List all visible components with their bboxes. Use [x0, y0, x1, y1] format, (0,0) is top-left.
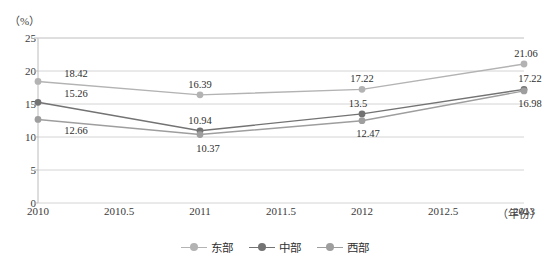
legend-item-1[interactable]: 中部 [249, 239, 301, 255]
data-label: 13.5 [349, 97, 367, 108]
legend-item-0[interactable]: 东部 [181, 239, 233, 255]
legend-marker-icon [317, 242, 343, 252]
gridlines [38, 38, 524, 203]
chart-legend: 东部中部西部 [0, 239, 549, 255]
data-point [359, 117, 366, 124]
data-label: 12.66 [64, 125, 88, 136]
data-label: 10.94 [188, 114, 212, 125]
data-point [521, 88, 528, 95]
data-point [197, 131, 204, 138]
data-point [197, 91, 204, 98]
series-line-1 [38, 89, 524, 130]
legend-marker-icon [249, 242, 275, 252]
data-label: 21.06 [514, 48, 538, 59]
data-label: 15.26 [64, 88, 88, 99]
series-line-2 [38, 91, 524, 135]
data-label: 17.22 [350, 73, 374, 84]
series-lines [38, 64, 524, 135]
data-label: 18.42 [64, 68, 88, 79]
data-point [359, 111, 366, 118]
data-label: 16.39 [188, 78, 212, 89]
legend-item-2[interactable]: 西部 [317, 239, 369, 255]
legend-marker-icon [181, 242, 207, 252]
legend-label: 中部 [279, 239, 301, 255]
data-point [35, 116, 42, 123]
line-chart: （%） （年份） 0510152025 20102010.520112011.5… [0, 0, 549, 264]
data-label: 10.37 [196, 142, 220, 153]
data-point [35, 78, 42, 85]
data-label: 17.22 [518, 73, 542, 84]
data-point [35, 99, 42, 106]
data-label: 16.98 [518, 97, 542, 108]
legend-label: 西部 [347, 239, 369, 255]
data-point [521, 61, 528, 68]
data-point [359, 86, 366, 93]
legend-label: 东部 [211, 239, 233, 255]
data-label: 12.47 [356, 127, 380, 138]
axis-lines [34, 38, 524, 203]
series-line-0 [38, 64, 524, 95]
